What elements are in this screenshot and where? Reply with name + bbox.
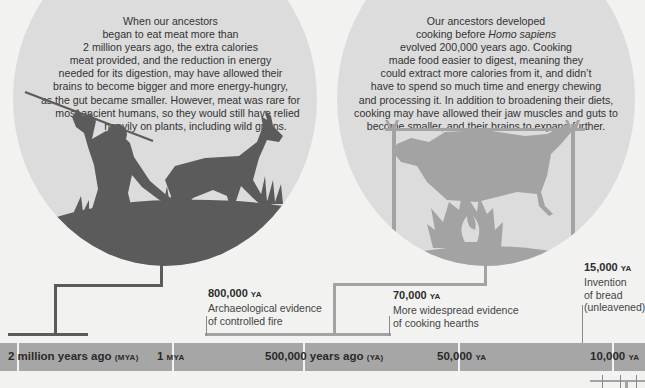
year-unit: YA xyxy=(251,290,262,299)
tick-label-10kya: 10,000 YA xyxy=(590,350,639,362)
tick-unit: YA xyxy=(628,353,639,362)
connector-cooking xyxy=(333,283,336,334)
tick-main: 1 xyxy=(157,350,167,362)
connector-meat xyxy=(160,264,163,286)
timeline-bar: 2 million years ago (MYA) 1 MYA 500,000 … xyxy=(0,343,645,371)
tick-label-1mya: 1 MYA xyxy=(157,350,185,362)
event-year: 15,000 YA xyxy=(584,261,645,276)
connector-cooking xyxy=(333,283,487,286)
year-value: 70,000 xyxy=(393,289,427,301)
event-cooking-hearths: 70,000 YA More widespread evidence of co… xyxy=(393,289,519,329)
tick-unit: YA xyxy=(475,353,486,362)
year-unit: YA xyxy=(621,264,632,273)
event-pointer-15k xyxy=(582,305,583,343)
event-desc: Archaeological evidence xyxy=(208,302,322,315)
event-year: 800,000 YA xyxy=(208,287,322,302)
connector-meat xyxy=(54,284,163,287)
event-desc: of bread xyxy=(584,289,645,302)
connector-meat xyxy=(54,284,57,334)
next-era-connector xyxy=(625,380,628,388)
event-pointer-70k xyxy=(389,316,390,336)
hunter-antelope-icon xyxy=(13,0,317,266)
event-controlled-fire: 800,000 YA Archaeological evidence of co… xyxy=(208,287,322,327)
next-era-pointer xyxy=(636,375,637,388)
meat-eating-circle: When our ancestors began to eat meat mor… xyxy=(13,0,317,266)
event-desc: (unleavened) xyxy=(584,301,645,314)
event-pointer-800k xyxy=(206,316,207,336)
roasting-spit-fire-icon xyxy=(337,0,635,266)
tick-unit: (YA) xyxy=(367,353,384,362)
next-era-pointer xyxy=(602,375,603,388)
cooking-era-span xyxy=(205,333,391,336)
year-unit: YA xyxy=(430,292,441,301)
tick-unit: MYA xyxy=(167,353,185,362)
meat-era-span xyxy=(8,333,88,336)
event-desc: Invention xyxy=(584,276,645,289)
event-desc: More widespread evidence xyxy=(393,304,519,317)
tick-label-500kya: 500,000 years ago (YA) xyxy=(265,350,384,362)
year-value: 800,000 xyxy=(208,287,248,299)
event-desc: of cooking hearths xyxy=(393,317,519,330)
tick-main: 2 million years ago xyxy=(8,350,115,362)
tick-label-2mya: 2 million years ago (MYA) xyxy=(8,350,139,362)
event-bread: 15,000 YA Invention of bread (unleavened… xyxy=(584,261,645,314)
connector-cooking xyxy=(484,264,487,285)
event-year: 70,000 YA xyxy=(393,289,519,304)
tick-label-50kya: 50,000 YA xyxy=(437,350,486,362)
tick-unit: (MYA) xyxy=(115,353,139,362)
event-desc: of controlled fire xyxy=(208,315,322,328)
tick-main: 10,000 xyxy=(590,350,628,362)
tick-main: 500,000 years ago xyxy=(265,350,367,362)
cooking-circle: Our ancestors developed cooking before H… xyxy=(337,0,635,266)
year-value: 15,000 xyxy=(584,261,618,273)
tick-main: 50,000 xyxy=(437,350,475,362)
next-era-pointer xyxy=(620,375,621,388)
